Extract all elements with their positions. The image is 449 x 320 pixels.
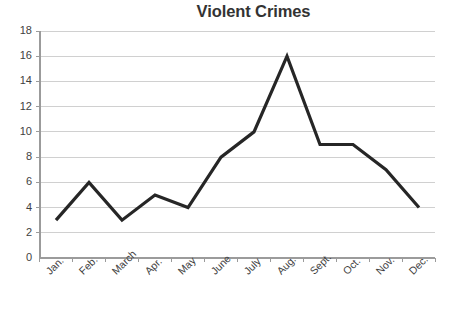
x-axis-tick-label: Sept. <box>308 252 333 277</box>
x-axis-tick-label: May <box>176 255 198 277</box>
x-axis-tick-label: June <box>209 253 233 277</box>
x-axis-tick-label: Apr. <box>143 256 164 277</box>
x-axis-tick-label: Jan. <box>44 255 66 277</box>
x-axis-labels: Jan.Feb.MarchApr.MayJuneJulyAug.Sept.Oct… <box>0 0 449 320</box>
chart-container: Violent Crimes 024681012141618 Jan.Feb.M… <box>0 0 449 320</box>
x-axis-tick-label: Dec. <box>407 254 430 277</box>
x-axis-tick-label: March <box>110 248 138 276</box>
x-axis-tick-label: Feb. <box>77 254 100 277</box>
x-axis-tick-label: Oct. <box>341 255 362 276</box>
x-axis-tick-label: Aug. <box>275 254 298 277</box>
x-axis-tick-label: Nov. <box>374 254 396 276</box>
x-axis-tick-label: July <box>242 256 263 277</box>
